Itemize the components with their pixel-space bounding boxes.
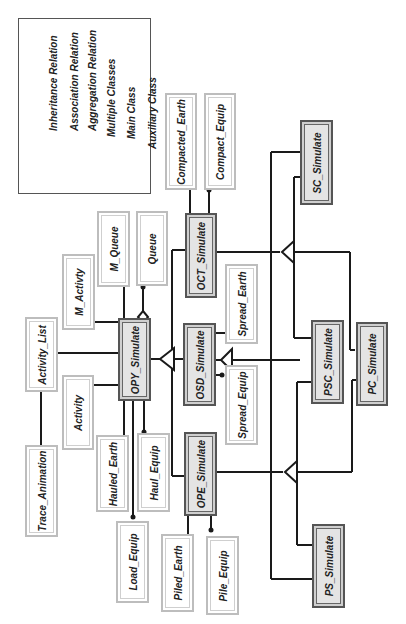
class-m-queue: M_Queue — [97, 211, 130, 287]
class-sc-simulate: SC_Simulate — [300, 120, 333, 205]
class-haul-equip: Haul_Equip — [137, 433, 170, 512]
class-trace-animation: Trace_Animation — [25, 445, 58, 537]
class-spread-equip: Spread_Equip — [225, 365, 258, 445]
class-oct-simulate: OCT_Simulate — [185, 213, 217, 298]
legend-association-label: Association Relation — [69, 32, 80, 131]
class-spread-earth: Spread_Earth — [225, 264, 258, 344]
class-diagram: Inheritance Relation Association Relatio… — [0, 0, 406, 624]
legend-aggregation-label: Aggregation Relation — [87, 30, 98, 131]
class-compact-equip: Compact_Equip — [204, 93, 236, 190]
legend: Inheritance Relation Association Relatio… — [18, 18, 151, 194]
class-load-equip: Load_Equip — [116, 521, 149, 603]
legend-auxiliary-class-label: Auxiliary Class — [147, 77, 158, 149]
class-psc-simulate: PSC_Simulate — [311, 320, 344, 404]
class-activity-list: Activity_List — [25, 317, 58, 392]
class-activity: Activity — [62, 375, 94, 450]
legend-multiple-label: Multiple Classes — [106, 59, 117, 137]
class-hauled-earth: Hauled_Earth — [96, 435, 129, 512]
class-opy-simulate: OPY_Simulate — [118, 318, 151, 401]
class-m-activty: M_Activty — [62, 254, 95, 330]
class-osd-simulate: OSD_Simulate — [183, 323, 216, 406]
class-compacted-earth: Compacted_Earth — [165, 93, 197, 190]
class-ps-simulate: PS_Simulate — [312, 524, 345, 608]
class-pc-simulate: PC_Simulate — [356, 322, 388, 406]
class-ope-simulate: OPE_Simulate — [184, 432, 217, 516]
class-queue: Queue — [136, 211, 168, 286]
class-pile-equip: Pile_Equip — [206, 536, 239, 615]
legend-inheritance-label: Inheritance Relation — [48, 35, 59, 131]
legend-main-class-label: Main Class — [126, 87, 137, 139]
class-piled-earth: Piled_Earth — [161, 534, 194, 612]
